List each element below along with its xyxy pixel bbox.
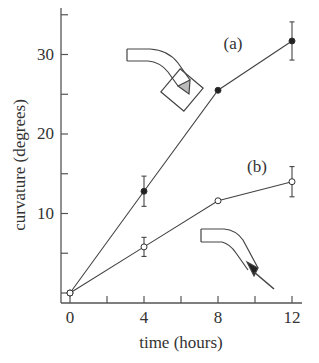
x-tick-labels: 0 4 8 12 xyxy=(66,308,301,327)
inset-sketch-a-icon xyxy=(127,49,203,111)
y-tick-label-10: 10 xyxy=(37,204,54,223)
filled-circle-marker xyxy=(215,87,221,93)
x-tick-label-8: 8 xyxy=(214,308,223,327)
open-circle-marker xyxy=(141,244,147,250)
y-ticks xyxy=(61,15,68,293)
x-axis-title: time (hours) xyxy=(139,333,223,352)
inset-sketch-b-icon xyxy=(201,229,274,289)
x-tick-label-12: 12 xyxy=(284,308,301,327)
series-b xyxy=(67,167,295,296)
x-tick-label-4: 4 xyxy=(140,308,149,327)
series-a-label: (a) xyxy=(224,34,243,53)
open-circle-marker xyxy=(215,198,221,204)
y-axis-title: curvature (degrees) xyxy=(10,99,29,231)
filled-circle-marker xyxy=(289,38,295,44)
x-ticks xyxy=(70,296,292,303)
y-tick-label-30: 30 xyxy=(37,45,54,64)
axes xyxy=(61,8,302,303)
x-tick-label-0: 0 xyxy=(66,308,75,327)
y-tick-label-20: 20 xyxy=(37,124,54,143)
y-tick-labels: 30 20 10 xyxy=(37,45,54,223)
open-circle-marker xyxy=(289,179,295,185)
series-b-label: (b) xyxy=(247,157,267,176)
filled-circle-marker xyxy=(141,188,147,194)
chart: 30 20 10 0 4 8 12 time (hours) curvature… xyxy=(0,0,319,363)
open-circle-marker xyxy=(67,290,73,296)
